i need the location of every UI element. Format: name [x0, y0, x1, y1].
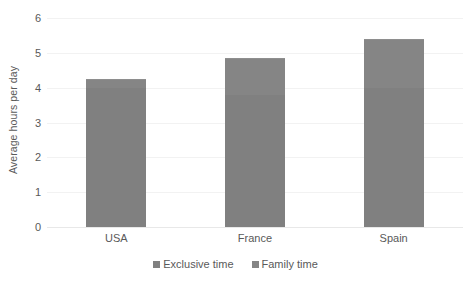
legend-item[interactable]: Family time [252, 259, 318, 270]
y-axis-tick-label: 5 [3, 47, 41, 58]
legend-item-label: Family time [262, 259, 318, 270]
bar-group[interactable] [47, 18, 186, 227]
bar-group[interactable] [186, 18, 325, 227]
legend-swatch-icon [252, 261, 259, 268]
y-axis-tick-label: 3 [3, 117, 41, 128]
x-axis-tick-label: Spain [324, 231, 463, 246]
y-axis-tick-labels: 6543210 [0, 18, 41, 227]
y-axis-tick-label: 0 [3, 222, 41, 233]
y-axis-tick-label: 2 [3, 152, 41, 163]
x-axis-tick-label: France [186, 231, 325, 246]
bar-segment[interactable] [225, 58, 285, 95]
y-axis-tick-label: 6 [3, 13, 41, 24]
x-axis-tick-labels: USAFranceSpain [47, 231, 463, 249]
chart-legend: Exclusive timeFamily time [0, 259, 471, 270]
y-axis-tick-label: 4 [3, 82, 41, 93]
legend-item[interactable]: Exclusive time [153, 259, 233, 270]
x-axis-tick-label: USA [47, 231, 186, 246]
bar-stack[interactable] [86, 79, 146, 227]
bar-segment[interactable] [225, 95, 285, 227]
bar-segment[interactable] [86, 88, 146, 227]
legend-item-label: Exclusive time [163, 259, 233, 270]
y-axis-tick-label: 1 [3, 187, 41, 198]
stacked-bar-chart: Average hours per day 6543210 USAFranceS… [0, 0, 471, 286]
legend-swatch-icon [153, 261, 160, 268]
bar-group[interactable] [324, 18, 463, 227]
bar-segment[interactable] [364, 39, 424, 88]
bars-layer [47, 18, 463, 227]
bar-stack[interactable] [225, 58, 285, 227]
bar-stack[interactable] [364, 39, 424, 227]
bar-segment[interactable] [364, 88, 424, 227]
bar-segment[interactable] [86, 79, 146, 88]
gridline [47, 227, 463, 228]
